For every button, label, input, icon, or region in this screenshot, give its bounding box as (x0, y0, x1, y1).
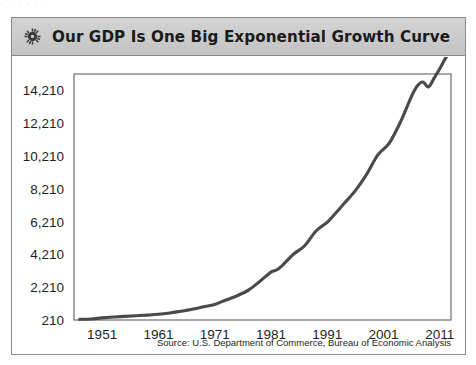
y-axis-tick-label: 6,210 (30, 215, 64, 230)
figure-header-bar: Our GDP Is One Big Exponential Growth Cu… (12, 18, 465, 56)
x-axis-tick-label: 1951 (87, 327, 117, 342)
y-axis-tick-label: 210 (41, 313, 64, 328)
y-axis-tick-label: 8,210 (30, 182, 64, 197)
y-axis-tick-label: 12,210 (23, 116, 64, 131)
y-axis-tick-label: 14,210 (23, 83, 64, 98)
chart-plot-region: 2102,2104,2106,2108,21010,21012,21014,21… (12, 57, 465, 354)
y-axis-tick-label: 2,210 (30, 280, 64, 295)
y-axis-tick-label: 10,210 (23, 149, 64, 164)
gear-icon (24, 28, 41, 45)
figure-title: Our GDP Is One Big Exponential Growth Cu… (52, 27, 450, 46)
y-axis-tick-label: 4,210 (30, 247, 64, 262)
gdp-line-chart: 2102,2104,2106,2108,21010,21012,21014,21… (12, 57, 465, 354)
plot-frame (74, 74, 451, 320)
scan-top-artifact: · · · · · · (0, 0, 476, 9)
figure-container: Our GDP Is One Big Exponential Growth Cu… (11, 17, 466, 355)
source-note: Source: U.S. Department of Commerce, Bur… (157, 337, 451, 348)
y-axis-tick-labels: 2102,2104,2106,2108,21010,21012,21014,21… (23, 83, 64, 328)
